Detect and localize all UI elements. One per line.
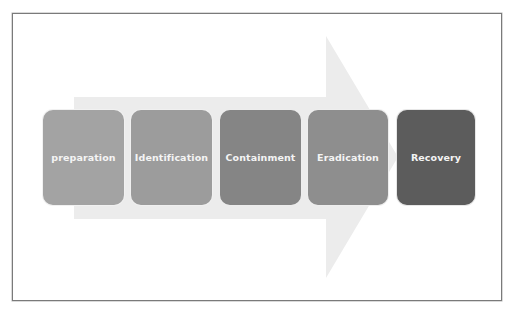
step-recovery: Recovery: [396, 109, 476, 206]
step-label: Identification: [135, 152, 208, 163]
step-label: Recovery: [411, 152, 461, 163]
step-preparation: preparation: [42, 109, 125, 206]
step-eradication: Eradication: [307, 109, 389, 206]
step-identification: Identification: [130, 109, 213, 206]
step-label: Containment: [226, 152, 296, 163]
step-containment: Containment: [219, 109, 302, 206]
step-label: Eradication: [317, 152, 379, 163]
step-label: preparation: [51, 152, 115, 163]
